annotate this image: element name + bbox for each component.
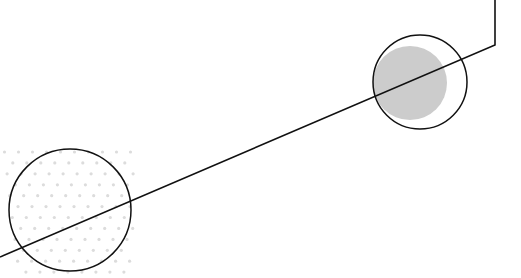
pattern-dot xyxy=(132,172,135,175)
pattern-dot xyxy=(50,194,53,197)
pattern-dot xyxy=(81,161,84,164)
pattern-dot xyxy=(81,216,84,219)
pattern-dot xyxy=(122,271,125,274)
pattern-dot xyxy=(39,216,42,219)
pattern-dot xyxy=(48,172,51,175)
pattern-dot xyxy=(101,150,104,153)
pattern-dot xyxy=(52,271,55,274)
pattern-dot xyxy=(38,271,41,274)
pattern-dot xyxy=(86,260,89,263)
pattern-dot xyxy=(11,161,14,164)
pattern-dot xyxy=(59,150,62,153)
pattern-dot xyxy=(27,238,30,241)
pattern-dot xyxy=(78,194,81,197)
pattern-dot xyxy=(16,205,19,208)
pattern-dot xyxy=(28,183,31,186)
pattern-dot xyxy=(67,216,70,219)
pattern-dot xyxy=(128,260,131,263)
pattern-dot xyxy=(111,238,114,241)
pattern-dot xyxy=(31,150,34,153)
pattern-dot xyxy=(84,183,87,186)
pattern-dot xyxy=(76,172,79,175)
pattern-dot xyxy=(108,271,111,274)
pattern-dot xyxy=(72,260,75,263)
pattern-dot xyxy=(80,271,83,274)
pattern-dot xyxy=(56,183,59,186)
pattern-dot xyxy=(97,238,100,241)
geometric-diagram xyxy=(0,0,521,278)
pattern-dot xyxy=(120,249,123,252)
pattern-dot xyxy=(78,249,81,252)
gray-filled-circle xyxy=(373,46,447,120)
pattern-dot xyxy=(58,205,61,208)
pattern-dot xyxy=(44,260,47,263)
pattern-dot xyxy=(98,183,101,186)
pattern-dot xyxy=(33,227,36,230)
pattern-dot xyxy=(50,249,53,252)
pattern-dot xyxy=(24,271,27,274)
pattern-dot xyxy=(83,238,86,241)
pattern-dot xyxy=(64,249,67,252)
pattern-dot xyxy=(70,183,73,186)
diagram-canvas xyxy=(0,0,521,278)
pattern-dot xyxy=(11,216,14,219)
pattern-dot xyxy=(72,205,75,208)
pattern-dot xyxy=(55,238,58,241)
pattern-dot xyxy=(90,172,93,175)
pattern-dot xyxy=(39,161,42,164)
pattern-dot xyxy=(25,161,28,164)
pattern-dot xyxy=(53,216,56,219)
pattern-dot xyxy=(30,205,33,208)
pattern-dot xyxy=(92,194,95,197)
pattern-dot xyxy=(131,227,134,230)
pattern-dot xyxy=(25,216,28,219)
pattern-dot xyxy=(104,172,107,175)
pattern-dot xyxy=(94,271,97,274)
pattern-dot xyxy=(100,205,103,208)
pattern-dot xyxy=(117,227,120,230)
pattern-dot xyxy=(34,172,37,175)
pattern-dot xyxy=(86,205,89,208)
pattern-dot xyxy=(58,260,61,263)
pattern-dot xyxy=(123,161,126,164)
pattern-dot xyxy=(36,194,39,197)
pattern-dot xyxy=(6,172,9,175)
pattern-dot xyxy=(42,183,45,186)
pattern-dot xyxy=(89,227,92,230)
pattern-dot xyxy=(30,260,33,263)
pattern-dot xyxy=(44,205,47,208)
pattern-dot xyxy=(16,260,19,263)
pattern-dot xyxy=(109,216,112,219)
pattern-dot xyxy=(75,227,78,230)
pattern-dot xyxy=(36,249,39,252)
pattern-dot xyxy=(106,194,109,197)
pattern-dot xyxy=(53,161,56,164)
pattern-dot xyxy=(73,150,76,153)
pattern-dot xyxy=(62,172,65,175)
pattern-dot xyxy=(125,238,128,241)
pattern-dot xyxy=(129,150,132,153)
pattern-dot xyxy=(106,249,109,252)
pattern-dot xyxy=(22,194,25,197)
pattern-dot xyxy=(64,194,67,197)
pattern-dot xyxy=(92,249,95,252)
pattern-dot xyxy=(112,183,115,186)
pattern-dot xyxy=(3,150,6,153)
pattern-dot xyxy=(120,194,123,197)
pattern-dot xyxy=(115,150,118,153)
pattern-dot xyxy=(103,227,106,230)
pattern-dot xyxy=(47,227,50,230)
left-outline-circle xyxy=(9,149,131,271)
pattern-dot xyxy=(123,216,126,219)
pattern-dot xyxy=(19,227,22,230)
pattern-dot xyxy=(95,161,98,164)
pattern-dot xyxy=(67,161,70,164)
pattern-dot xyxy=(69,238,72,241)
pattern-dot xyxy=(114,260,117,263)
pattern-dot xyxy=(17,150,20,153)
